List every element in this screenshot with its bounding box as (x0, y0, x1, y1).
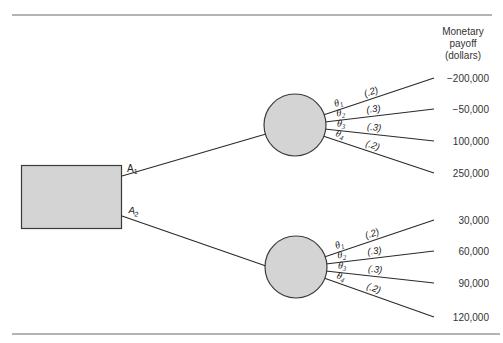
payoff-value: 60,000 (458, 246, 489, 257)
payoff-value: −200,000 (447, 73, 489, 84)
decision-node (22, 166, 122, 229)
chance-node-a2 (265, 236, 327, 298)
decision-tree-diagram: Monetary payoff (dollars) A1 A2 θ1(.2)−2… (0, 0, 503, 343)
payoff-value: −50,000 (453, 104, 490, 115)
payoff-header-line-1: Monetary (442, 26, 484, 37)
payoff-header-line-2: payoff (449, 38, 476, 49)
action-label-a1: A1 (127, 163, 138, 175)
payoff-value: 120,000 (453, 312, 490, 323)
probability-label: (.3) (368, 263, 383, 275)
payoff-value: 100,000 (453, 136, 490, 147)
action-edge-a1 (122, 134, 266, 176)
action-edge-a2 (122, 216, 266, 266)
chance-outcomes-a1: θ1(.2)−200,000θ2(.3)−50,000θ3(.3)100,000… (323, 73, 489, 179)
probability-label: (.3) (366, 102, 381, 115)
payoff-value: 90,000 (458, 278, 489, 289)
chance-node-a1 (264, 94, 326, 156)
probability-label: (.3) (367, 121, 382, 133)
action-label-a2: A2 (127, 204, 140, 218)
probability-label: (.3) (367, 244, 382, 257)
payoff-value: 30,000 (458, 215, 489, 226)
chance-outcomes-a2: θ1(.2)30,000θ2(.3)60,000θ3(.3)90,000θ4(.… (324, 215, 489, 323)
payoff-value: 250,000 (453, 168, 490, 179)
payoff-header-line-3: (dollars) (445, 50, 481, 61)
